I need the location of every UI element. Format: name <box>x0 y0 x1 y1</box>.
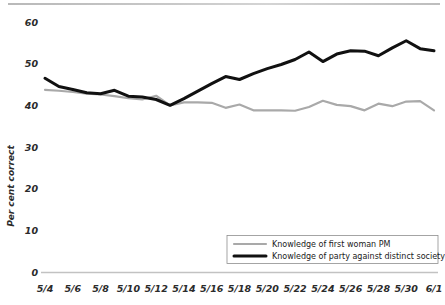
chart-legend: Knowledge of first woman PM Knowledge of… <box>227 236 445 264</box>
chart-container: 0102030405060 5/45/65/85/105/125/145/165… <box>0 0 445 305</box>
x-tick-5-22: 5/22 <box>283 283 307 294</box>
x-tick-6-1: 6/1 <box>426 283 443 294</box>
x-tick-5-20: 5/20 <box>256 283 280 294</box>
x-tick-5-18: 5/18 <box>228 283 252 294</box>
y-tick-10: 10 <box>25 225 39 236</box>
y-axis-tick-labels: 0102030405060 <box>24 17 39 278</box>
y-tick-0: 0 <box>31 267 38 278</box>
y-tick-30: 30 <box>25 142 39 153</box>
x-tick-5-4: 5/4 <box>37 283 54 294</box>
y-axis-title: Per cent correct <box>6 145 16 227</box>
x-tick-5-28: 5/28 <box>367 283 391 294</box>
y-tick-40: 40 <box>24 100 39 111</box>
y-tick-50: 50 <box>25 58 39 69</box>
legend-label-distinct-society: Knowledge of party against distinct soci… <box>272 252 445 261</box>
y-tick-20: 20 <box>25 183 39 194</box>
x-tick-5-30: 5/30 <box>395 283 419 294</box>
x-tick-5-10: 5/10 <box>117 283 141 294</box>
x-tick-5-12: 5/12 <box>144 283 168 294</box>
x-tick-5-24: 5/24 <box>311 283 335 294</box>
x-tick-5-26: 5/26 <box>339 283 363 294</box>
y-tick-60: 60 <box>25 17 39 28</box>
series-layer <box>45 41 434 111</box>
x-tick-5-8: 5/8 <box>92 283 109 294</box>
x-tick-5-14: 5/14 <box>172 283 196 294</box>
x-axis-tick-labels: 5/45/65/85/105/125/145/165/185/205/225/2… <box>37 283 443 294</box>
line-chart: 0102030405060 5/45/65/85/105/125/145/165… <box>0 0 445 305</box>
legend-label-first-woman-pm: Knowledge of first woman PM <box>272 240 391 249</box>
x-tick-5-16: 5/16 <box>200 283 224 294</box>
x-tick-5-6: 5/6 <box>64 283 81 294</box>
